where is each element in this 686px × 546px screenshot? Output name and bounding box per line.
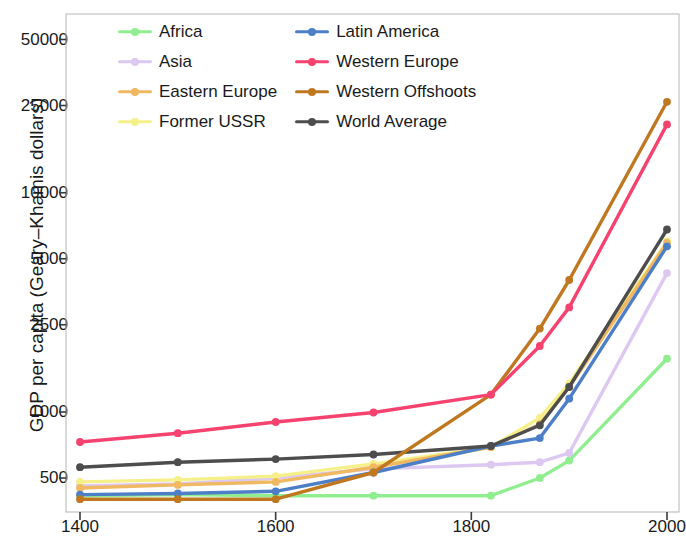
data-point	[565, 304, 573, 312]
data-point	[536, 434, 544, 442]
legend-swatch-icon	[295, 54, 329, 70]
data-point	[370, 469, 378, 477]
data-point	[487, 461, 495, 469]
data-point	[663, 121, 671, 129]
legend-swatch-icon	[118, 84, 152, 100]
data-point	[663, 226, 671, 234]
legend-entry-eastern-europe[interactable]: Eastern Europe	[118, 78, 277, 105]
data-point	[174, 458, 182, 466]
data-point	[536, 325, 544, 333]
series-line	[80, 102, 667, 499]
data-point	[174, 481, 182, 489]
data-point	[76, 438, 84, 446]
legend-swatch-icon	[295, 24, 329, 40]
data-point	[536, 458, 544, 466]
series-line	[80, 241, 667, 482]
legend-label: Western Europe	[336, 52, 459, 72]
data-point	[272, 495, 280, 503]
legend-entry-western-europe[interactable]: Western Europe	[295, 48, 476, 75]
legend-swatch-icon	[295, 84, 329, 100]
legend-label: Former USSR	[159, 112, 266, 132]
data-point	[272, 455, 280, 463]
legend-label: Eastern Europe	[159, 82, 277, 102]
data-point	[565, 383, 573, 391]
data-point	[174, 429, 182, 437]
legend-entry-former-ussr[interactable]: Former USSR	[118, 108, 277, 135]
data-point	[536, 421, 544, 429]
data-point	[663, 242, 671, 250]
legend-label: Latin America	[336, 22, 439, 42]
data-point	[76, 463, 84, 471]
series-line	[80, 124, 667, 442]
series-western-europe	[76, 121, 671, 446]
data-point	[565, 276, 573, 284]
data-point	[565, 457, 573, 465]
data-point	[663, 355, 671, 363]
data-point	[272, 487, 280, 495]
data-point	[272, 478, 280, 486]
legend-entry-world-average[interactable]: World Average	[295, 108, 476, 135]
data-point	[536, 474, 544, 482]
legend-swatch-icon	[118, 24, 152, 40]
data-point	[76, 495, 84, 503]
data-point	[536, 342, 544, 350]
data-point	[370, 409, 378, 417]
data-point	[565, 395, 573, 403]
legend-swatch-icon	[118, 114, 152, 130]
legend-swatch-icon	[295, 114, 329, 130]
data-point	[370, 451, 378, 459]
legend-entry-asia[interactable]: Asia	[118, 48, 277, 75]
data-point	[487, 391, 495, 399]
series-western-offshoots	[76, 98, 671, 503]
legend-entry-western-offshoots[interactable]: Western Offshoots	[295, 78, 476, 105]
data-point	[487, 492, 495, 500]
data-point	[663, 269, 671, 277]
chart-legend: AfricaLatin AmericaAsiaWestern EuropeEas…	[118, 18, 476, 135]
data-point	[663, 98, 671, 106]
legend-label: Western Offshoots	[336, 82, 476, 102]
data-point	[487, 442, 495, 450]
legend-swatch-icon	[118, 54, 152, 70]
legend-label: Africa	[159, 22, 202, 42]
data-point	[272, 418, 280, 426]
legend-label: Asia	[159, 52, 192, 72]
legend-label: World Average	[336, 112, 447, 132]
legend-entry-latin-america[interactable]: Latin America	[295, 18, 476, 45]
data-point	[565, 449, 573, 457]
data-point	[370, 492, 378, 500]
legend-entry-africa[interactable]: Africa	[118, 18, 277, 45]
data-point	[174, 495, 182, 503]
